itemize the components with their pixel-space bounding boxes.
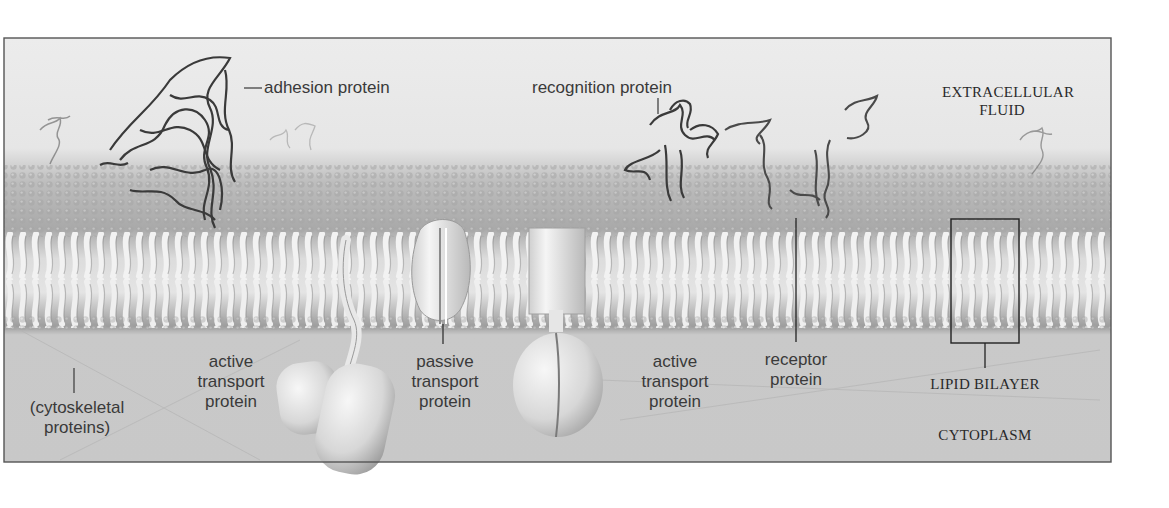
passive-line2: transport	[400, 372, 490, 392]
label-active-transport-protein-1: active transport protein	[186, 352, 276, 412]
outer-leaflet-heads	[4, 165, 1111, 237]
passive-line1: passive	[400, 352, 490, 372]
label-recognition-protein: recognition protein	[532, 78, 672, 98]
receptor-line2: protein	[756, 370, 836, 390]
receptor-line1: receptor	[756, 350, 836, 370]
label-lipid-bilayer: LIPID BILAYER	[920, 375, 1050, 393]
cyto-line1: (cytoskeletal	[22, 398, 132, 418]
active2-line3: protein	[630, 392, 720, 412]
label-passive-transport-protein: passive transport protein	[400, 352, 490, 412]
passive-transport-protein-shape	[412, 220, 471, 325]
passive-line3: protein	[400, 392, 490, 412]
active2-line1: active	[630, 352, 720, 372]
label-adhesion-protein: adhesion protein	[264, 78, 390, 98]
active1-line1: active	[186, 352, 276, 372]
extracellular-line2: FLUID	[942, 101, 1062, 119]
membrane-figure: adhesion protein recognition protein EXT…	[0, 0, 1169, 508]
label-receptor-protein: receptor protein	[756, 350, 836, 390]
active1-line3: protein	[186, 392, 276, 412]
active1-line2: transport	[186, 372, 276, 392]
extracellular-line1: EXTRACELLULAR	[942, 83, 1062, 101]
label-cytoskeletal-proteins: (cytoskeletal proteins)	[22, 398, 132, 438]
label-active-transport-protein-2: active transport protein	[630, 352, 720, 412]
label-extracellular-fluid: EXTRACELLULAR FLUID	[942, 83, 1062, 119]
cyto-line2: proteins)	[22, 418, 132, 438]
active2-line2: transport	[630, 372, 720, 392]
label-cytoplasm: CYTOPLASM	[920, 426, 1050, 444]
